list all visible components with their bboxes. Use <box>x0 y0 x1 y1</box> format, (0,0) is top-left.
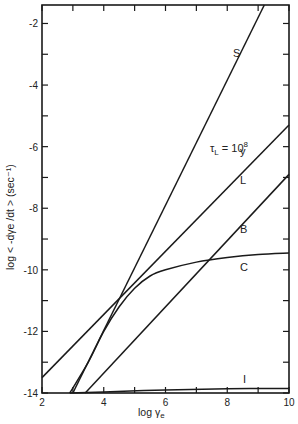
y-tick-label: -12 <box>24 326 39 337</box>
curve-label-b: B <box>240 223 247 235</box>
curve-label-c: C <box>240 261 248 273</box>
plot-frame <box>42 5 289 393</box>
x-axis-title: log γe <box>138 406 165 420</box>
svg-text:y: y <box>240 145 246 157</box>
y-tick-label: -4 <box>29 80 38 91</box>
curve-label-l: L <box>240 174 246 186</box>
y-tick-label: -6 <box>29 142 38 153</box>
curve-label-i: I <box>243 373 246 385</box>
chart: 246810-2-4-6-8-10-12-14 S L B C I τL = 1… <box>0 0 298 424</box>
y-tick-label: -14 <box>24 388 39 399</box>
y-tick-label: -8 <box>29 203 38 214</box>
x-tick-label: 8 <box>224 397 230 408</box>
x-tick-label: 4 <box>101 397 107 408</box>
y-tick-label: -2 <box>29 18 38 29</box>
x-tick-label: 6 <box>163 397 169 408</box>
y-axis-title: log < -dγe /dt > (sec⁻¹) <box>4 164 16 270</box>
curve-l <box>42 125 289 378</box>
axes-box <box>42 5 289 393</box>
curve-c <box>70 253 289 393</box>
tau-annotation: τL = 108 y <box>210 140 249 157</box>
axis-ticks: 246810-2-4-6-8-10-12-14 <box>24 5 295 408</box>
y-tick-label: -10 <box>24 265 39 276</box>
x-tick-label: 2 <box>39 397 45 408</box>
x-tick-label: 10 <box>283 397 295 408</box>
curve-b <box>85 174 289 393</box>
curve-label-s: S <box>233 47 240 59</box>
curves <box>42 5 289 393</box>
